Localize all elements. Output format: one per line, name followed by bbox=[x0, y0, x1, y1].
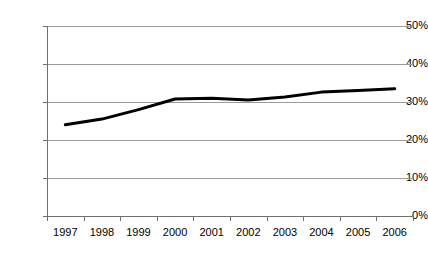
x-axis-tick-label: 1997 bbox=[47, 227, 84, 238]
x-axis-tick-mark bbox=[120, 216, 121, 221]
x-axis-tick-mark bbox=[267, 216, 268, 221]
x-axis-tick-mark bbox=[376, 216, 377, 221]
x-axis-tick-label: 2003 bbox=[267, 227, 304, 238]
grid-line bbox=[47, 178, 413, 179]
grid-line bbox=[47, 64, 413, 65]
x-axis-tick-label: 1999 bbox=[120, 227, 157, 238]
x-axis-tick-label: 2002 bbox=[230, 227, 267, 238]
x-axis-tick-mark bbox=[193, 216, 194, 221]
grid-line bbox=[47, 26, 413, 27]
x-axis-tick-mark bbox=[303, 216, 304, 221]
grid-line bbox=[47, 140, 413, 141]
x-axis-tick-label: 1998 bbox=[84, 227, 121, 238]
line-chart: 0%10%20%30%40%50% 1997199819992000200120… bbox=[0, 0, 428, 256]
x-axis-tick-mark bbox=[157, 216, 158, 221]
x-axis-tick-label: 2006 bbox=[376, 227, 413, 238]
x-axis-tick-mark bbox=[84, 216, 85, 221]
x-axis-tick-mark bbox=[230, 216, 231, 221]
x-axis-tick-mark bbox=[340, 216, 341, 221]
x-axis-tick-label: 2004 bbox=[303, 227, 340, 238]
x-axis-tick-label: 2000 bbox=[157, 227, 194, 238]
y-axis-line bbox=[47, 26, 48, 217]
x-axis-tick-label: 2001 bbox=[193, 227, 230, 238]
x-axis-tick-label: 2005 bbox=[340, 227, 377, 238]
x-axis-tick-mark bbox=[413, 216, 414, 221]
x-axis-tick-mark bbox=[47, 216, 48, 221]
grid-line bbox=[47, 102, 413, 103]
plot-area bbox=[47, 26, 413, 216]
